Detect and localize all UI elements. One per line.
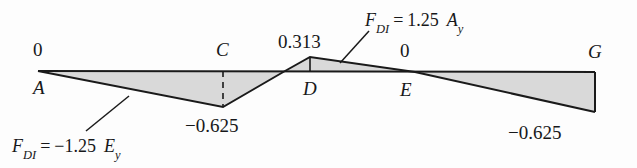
equation-left-subscript: DI bbox=[23, 148, 36, 162]
equation-label-right: FDI=1.25Ay bbox=[365, 11, 463, 33]
node-label-a: A bbox=[33, 78, 45, 97]
shear-force-diagram-figure: 0 A C −0.625 0.313 D 0 E G −0.625 FDI=−1… bbox=[0, 0, 637, 168]
node-label-c: C bbox=[216, 40, 229, 59]
equation-right-symbol: F bbox=[365, 10, 376, 30]
equation-left-coefficient: −1.25 bbox=[54, 136, 96, 156]
value-label-a-zero: 0 bbox=[33, 40, 43, 59]
zero-baseline bbox=[38, 71, 595, 72]
node-label-g: G bbox=[588, 42, 602, 61]
equation-left-symbol: F bbox=[12, 136, 23, 156]
leader-line-right bbox=[340, 31, 369, 63]
equation-label-left: FDI=−1.25Ey bbox=[12, 137, 121, 159]
leader-line-left bbox=[86, 96, 129, 131]
equation-right-operator: = bbox=[393, 10, 403, 30]
equation-right-variable-subscript: y bbox=[458, 22, 464, 36]
equation-left-variable-subscript: y bbox=[115, 148, 121, 162]
node-label-d: D bbox=[303, 79, 317, 98]
value-label-d: 0.313 bbox=[278, 32, 321, 51]
equation-right-coefficient: 1.25 bbox=[407, 10, 439, 30]
value-label-e-zero: 0 bbox=[400, 41, 410, 60]
value-label-c: −0.625 bbox=[185, 116, 238, 135]
equation-right-variable: A bbox=[447, 10, 458, 30]
equation-right-subscript: DI bbox=[376, 22, 389, 36]
value-label-g: −0.625 bbox=[508, 123, 561, 142]
equation-left-operator: = bbox=[40, 136, 50, 156]
equation-left-variable: E bbox=[104, 136, 115, 156]
node-label-e: E bbox=[400, 80, 412, 99]
